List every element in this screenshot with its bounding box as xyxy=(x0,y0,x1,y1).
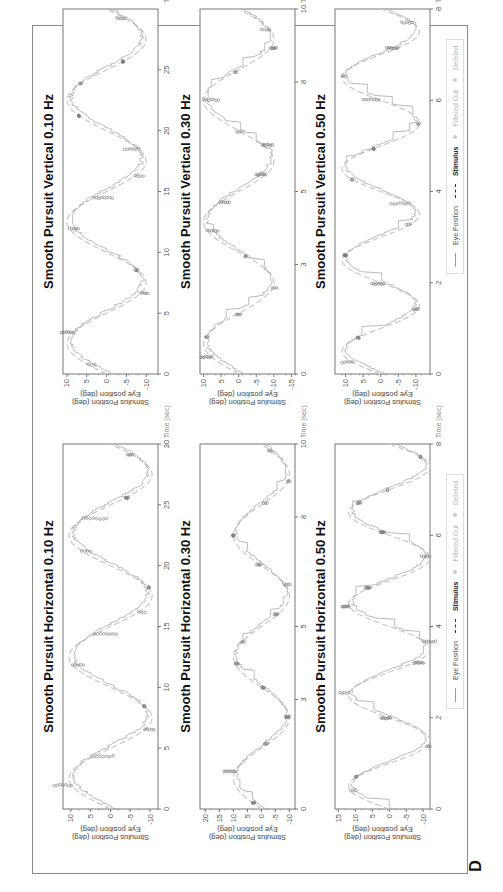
y-tick-label: 15 xyxy=(334,814,343,822)
y-tick-label: 0 xyxy=(234,379,243,383)
y-axis-label-eye: Eye position (deg) xyxy=(352,825,413,834)
plot-area xyxy=(335,9,430,374)
y-tick-label: 20 xyxy=(201,814,210,822)
y-tick-label: 5 xyxy=(368,814,377,818)
legend-eye-swatch xyxy=(455,688,456,702)
y-tick-label: -10 xyxy=(285,814,294,825)
y-tick-label: 10 xyxy=(66,814,75,822)
x-tick-label: 4 xyxy=(434,189,443,193)
y-tick-label: 5 xyxy=(86,814,95,818)
y-tick-label: 10 xyxy=(199,379,208,387)
y-tick-label: -5 xyxy=(271,814,280,821)
y-tick-label: 5 xyxy=(243,814,252,818)
legend-eye-swatch xyxy=(455,253,456,267)
saccade-marker xyxy=(60,331,63,334)
legend-filtered-label: Filtered Out xyxy=(452,525,459,562)
x-tick-label: 0 xyxy=(434,807,443,811)
legend-stimulus-swatch xyxy=(455,619,456,633)
y-tick-label: 5 xyxy=(82,379,91,383)
y-tick-label: -10 xyxy=(411,379,420,390)
x-tick-label: 6 xyxy=(434,98,443,102)
y-tick-label: -5 xyxy=(126,814,135,821)
x-tick-label: 8 xyxy=(434,7,443,11)
legend-eye-label: Eye Position xyxy=(452,641,459,680)
saccade-marker xyxy=(53,784,56,787)
y-tick-label: -5 xyxy=(122,379,131,386)
legend-deleted-label: Deleted xyxy=(452,481,459,505)
plot-area xyxy=(63,9,158,374)
y-axis-label-eye: Eye position (deg) xyxy=(217,390,278,399)
chart-panel-vertical-030hz: Smooth Pursuit Vertical 0.30 Hz1050-5-10… xyxy=(170,0,320,418)
saccade-marker xyxy=(59,783,62,786)
chart-svg: 151050-5-1002468Time (sec)Stimulus Posit… xyxy=(305,404,455,853)
legend-filtered-dot-icon xyxy=(453,135,457,139)
y-tick-label: -10 xyxy=(146,814,155,825)
legend-filtered-dot-icon xyxy=(453,570,457,574)
y-tick-label: 10 xyxy=(351,814,360,822)
legend-deleted-dot-icon xyxy=(453,78,457,82)
y-tick-label: 0 xyxy=(376,379,385,383)
x-axis-label: Time (sec) xyxy=(435,0,443,3)
x-tick-label: 4 xyxy=(434,624,443,628)
y-tick-label: 10 xyxy=(229,814,238,822)
y-tick-label: 0 xyxy=(106,814,115,818)
x-tick-label: 8 xyxy=(434,442,443,446)
y-tick-label: -10 xyxy=(142,379,151,390)
legend-filtered-label: Filtered Out xyxy=(452,90,459,127)
panel-letter: D xyxy=(467,860,485,872)
y-tick-label: 5 xyxy=(217,379,226,383)
legend-stimulus-swatch xyxy=(455,184,456,198)
plot-area xyxy=(200,444,295,809)
y-tick-label: -5 xyxy=(394,379,403,386)
chart-svg: 1050-5-1002468Time (sec)Stimulus Positio… xyxy=(305,0,455,418)
chart-legend: Eye Position Stimulus Filtered Out Delet… xyxy=(446,39,464,274)
chart-svg: 1050-5-100510152025Time (sec)Stimulus Po… xyxy=(33,0,183,418)
y-tick-label: 15 xyxy=(215,814,224,822)
chart-panel-vertical-050hz: Smooth Pursuit Vertical 0.50 Hz1050-5-10… xyxy=(305,0,455,418)
chart-panel-vertical-010hz: Smooth Pursuit Vertical 0.10 Hz1050-5-10… xyxy=(33,0,183,418)
y-tick-label: -15 xyxy=(287,379,296,390)
legend-stimulus-label: Stimulus xyxy=(452,582,459,612)
legend-stimulus-label: Stimulus xyxy=(452,147,459,177)
y-tick-label: -5 xyxy=(252,379,261,386)
y-axis-label-eye: Eye position (deg) xyxy=(80,825,141,834)
x-tick-label: 0 xyxy=(434,372,443,376)
chart-panel-horizontal-010hz: Smooth Pursuit Horizontal 0.10 Hz1050-5-… xyxy=(33,404,183,853)
chart-svg: 20151050-5-10035810Time (sec)Stimulus Po… xyxy=(170,404,320,853)
chart-panel-horizontal-050hz: Smooth Pursuit Horizontal 0.50 Hz151050-… xyxy=(305,404,455,853)
y-axis-label-eye: Eye position (deg) xyxy=(352,390,413,399)
legend-deleted-dot-icon xyxy=(453,513,457,517)
y-tick-label: 0 xyxy=(385,814,394,818)
x-tick-label: 2 xyxy=(434,281,443,285)
legend-deleted-label: Deleted xyxy=(452,46,459,70)
y-tick-label: 5 xyxy=(359,379,368,383)
chart-panel-horizontal-030hz: Smooth Pursuit Horizontal 0.30 Hz2015105… xyxy=(170,404,320,853)
chart-svg: 1050-5-10-15035810Time (sec)Stimulus Pos… xyxy=(170,0,320,418)
y-tick-label: 10 xyxy=(341,379,350,387)
y-axis-label-eye: Eye position (deg) xyxy=(80,390,141,399)
y-tick-label: 10 xyxy=(62,379,71,387)
x-tick-label: 2 xyxy=(434,716,443,720)
plot-area xyxy=(200,9,295,374)
y-tick-label: 0 xyxy=(102,379,111,383)
y-tick-label: -10 xyxy=(269,379,278,390)
y-tick-label: -10 xyxy=(419,814,428,825)
chart-legend: Eye Position Stimulus Filtered Out Delet… xyxy=(446,474,464,709)
saccade-marker xyxy=(56,784,59,787)
plot-area xyxy=(335,444,430,809)
figure-panel-d: Smooth Pursuit Horizontal 0.10 Hz1050-5-… xyxy=(32,25,468,874)
y-tick-label: 0 xyxy=(257,814,266,818)
legend-eye-label: Eye Position xyxy=(452,206,459,245)
x-tick-label: 6 xyxy=(434,533,443,537)
chart-svg: 1050-5-10051015202530Time (sec)Stimulus … xyxy=(33,404,183,853)
y-axis-label-eye: Eye position (deg) xyxy=(217,825,278,834)
y-tick-label: -5 xyxy=(402,814,411,821)
